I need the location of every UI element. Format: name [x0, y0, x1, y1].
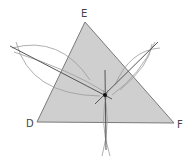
vertex-label-d: D: [26, 118, 34, 129]
vertex-label-e: E: [81, 8, 87, 19]
circumcenter-point: [103, 93, 107, 97]
triangle-construction: E D F: [0, 0, 191, 163]
diagram-canvas: E D F: [0, 0, 191, 163]
vertex-label-f: F: [177, 119, 183, 130]
